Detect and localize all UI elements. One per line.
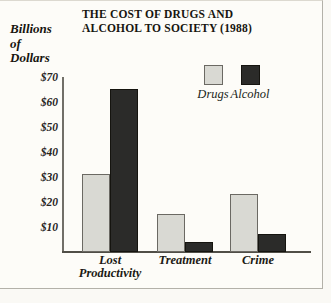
category-label-line: Crime xyxy=(198,254,318,267)
legend-label-alcohol: Alcohol xyxy=(231,88,270,101)
y-tick-label-60: $60 xyxy=(22,95,58,110)
y-axis-label-line-2: of xyxy=(10,37,52,52)
legend-swatch-alcohol xyxy=(241,65,260,85)
y-tick-label-10: $10 xyxy=(22,220,58,235)
chart-title-line-1: THE COST OF DRUGS AND xyxy=(82,8,252,22)
bar-drugs-treatment xyxy=(157,214,185,252)
category-label-crime: Crime xyxy=(198,254,318,267)
bar-drugs-crime xyxy=(230,194,258,252)
y-axis-label: Billions of Dollars xyxy=(10,22,52,66)
y-axis-line xyxy=(62,77,64,252)
y-tick-label-30: $30 xyxy=(22,170,58,185)
y-axis-label-line-3: Dollars xyxy=(10,51,52,66)
y-tick-label-50: $50 xyxy=(22,120,58,135)
legend-swatch-drugs xyxy=(204,65,223,85)
bar-alcohol-crime xyxy=(258,234,286,252)
bar-alcohol-treatment xyxy=(185,242,213,252)
chart-figure: THE COST OF DRUGS AND ALCOHOL TO SOCIETY… xyxy=(0,0,323,289)
legend-label-drugs: Drugs xyxy=(197,88,228,101)
y-tick-label-40: $40 xyxy=(22,145,58,160)
category-label-line: Productivity xyxy=(50,267,170,280)
y-tick-label-20: $20 xyxy=(22,195,58,210)
y-axis-label-line-1: Billions xyxy=(10,22,52,37)
bar-drugs-lost-productivity xyxy=(82,174,110,252)
chart-title-line-2: ALCOHOL TO SOCIETY (1988) xyxy=(82,22,252,36)
y-tick-label-70: $70 xyxy=(22,70,58,85)
bar-alcohol-lost-productivity xyxy=(110,89,138,252)
chart-title: THE COST OF DRUGS AND ALCOHOL TO SOCIETY… xyxy=(82,8,252,35)
page: THE COST OF DRUGS AND ALCOHOL TO SOCIETY… xyxy=(0,0,331,303)
legend-item-alcohol: Alcohol xyxy=(228,65,272,101)
